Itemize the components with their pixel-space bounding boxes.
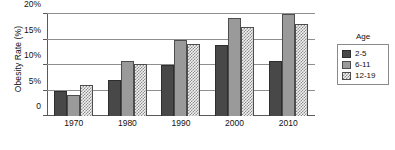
- legend-swatch-icon: [342, 72, 351, 80]
- legend-swatch-icon: [342, 50, 351, 58]
- bar: [187, 44, 200, 116]
- bar-group: [47, 14, 101, 116]
- y-tick-label: 10%: [24, 50, 41, 60]
- bar: [67, 95, 80, 116]
- legend-item[interactable]: 2-5: [342, 48, 385, 59]
- bar-chart: Obesity Rate (%) 05%10%15%20% 1970198019…: [0, 0, 395, 150]
- y-axis-title: Obesity Rate (%): [13, 4, 23, 114]
- legend-box: 2-56-1112-19: [337, 44, 389, 85]
- y-tick-label: 0: [36, 101, 41, 111]
- legend-title: Age: [337, 32, 389, 41]
- legend-item[interactable]: 6-11: [342, 59, 385, 70]
- bar: [134, 64, 147, 116]
- bar-group: [154, 14, 208, 116]
- legend-item-label: 6-11: [355, 60, 370, 69]
- bar: [215, 45, 228, 116]
- legend-swatch-icon: [342, 61, 351, 69]
- bar-groups: [47, 14, 315, 116]
- bar: [228, 18, 241, 116]
- bar: [269, 61, 282, 116]
- legend-item[interactable]: 12-19: [342, 70, 385, 81]
- bar: [121, 61, 134, 116]
- bar: [161, 65, 174, 116]
- plot-area: 05%10%15%20%: [47, 14, 315, 116]
- x-tick-label: 1990: [154, 118, 208, 128]
- bar: [108, 80, 121, 116]
- bar: [54, 91, 67, 117]
- bar-group: [101, 14, 155, 116]
- y-tick-label: 15%: [24, 25, 41, 35]
- x-tick-label: 1970: [47, 118, 101, 128]
- bar: [295, 24, 308, 116]
- bar: [241, 27, 254, 116]
- bar: [174, 40, 187, 117]
- y-tick-label: 5%: [29, 76, 41, 86]
- x-axis-labels: 19701980199020002010: [47, 118, 315, 128]
- x-tick-label: 1980: [101, 118, 155, 128]
- x-tick-label: 2000: [208, 118, 262, 128]
- y-tick-label: 20%: [24, 0, 41, 9]
- legend-item-label: 12-19: [355, 71, 375, 80]
- bar-group: [261, 14, 315, 116]
- bar: [282, 14, 295, 116]
- legend: Age 2-56-1112-19: [337, 32, 389, 85]
- legend-item-label: 2-5: [355, 49, 367, 58]
- bar: [80, 85, 93, 116]
- bar-group: [208, 14, 262, 116]
- x-tick-label: 2010: [261, 118, 315, 128]
